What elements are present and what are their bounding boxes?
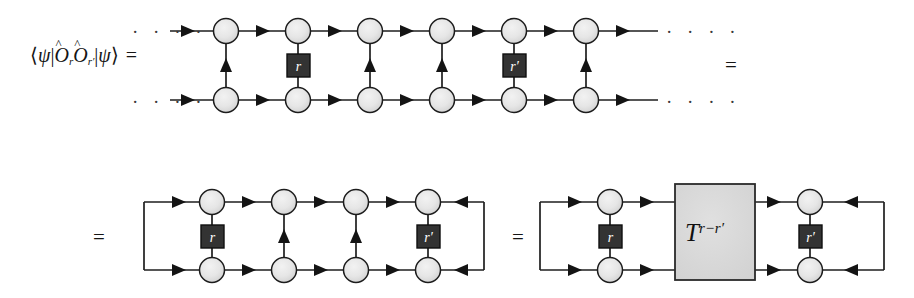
arrow-up-icon [580,58,592,72]
arrow-left-icon [844,264,858,276]
arrow-right-icon [314,196,328,208]
tensor-network-svg [0,0,914,298]
arrow-right-icon [328,94,342,106]
arrow-right-icon [256,94,270,106]
arrow-right-icon [242,196,256,208]
arrow-up-icon [278,229,290,243]
formula-equals: = [126,44,137,66]
right-ellipsis-top: · · · · [666,22,741,41]
line3-group [540,184,884,283]
arrow-right-icon [568,196,582,208]
arrow-up-icon [364,58,376,72]
expectation-value-formula: ⟨ψ|O^rO^r′|ψ⟩= [30,45,137,67]
tensor-node[interactable] [272,190,297,215]
arrow-right-icon [616,25,630,37]
arrow-left-icon [844,196,858,208]
arrow-right-icon [472,25,486,37]
arrow-up-icon [350,229,362,243]
tensor-node[interactable] [286,19,311,44]
arrow-right-icon [386,196,400,208]
tensor-node[interactable] [430,19,455,44]
arrow-left-icon [454,264,468,276]
transfer-matrix-box[interactable] [675,184,755,280]
tensor-node[interactable] [416,190,441,215]
arrow-right-icon [386,264,400,276]
arrow-right-icon [172,196,186,208]
tensor-node[interactable] [416,258,441,283]
arrow-right-icon [616,94,630,106]
tensor-node[interactable] [358,88,383,113]
arrow-right-icon [242,264,256,276]
operator-box-r-prime[interactable] [503,54,526,77]
arrow-right-icon [640,196,654,208]
tensor-node[interactable] [502,19,527,44]
arrow-right-icon [256,25,270,37]
left-ellipsis-bottom: · · · · [132,92,207,111]
arrow-right-icon [172,264,186,276]
arrow-right-icon [640,264,654,276]
tensor-node[interactable] [798,258,823,283]
tensor-node[interactable] [272,258,297,283]
arrow-right-icon [472,94,486,106]
operator-box-r-prime[interactable] [799,225,822,248]
tensor-node[interactable] [344,258,369,283]
operator-box-r[interactable] [599,225,622,248]
formula-operator-1: O^ [54,45,68,65]
formula-bra-open: ⟨ [30,44,38,66]
tensor-node[interactable] [214,19,239,44]
formula-psi-right: ψ [98,44,110,66]
arrow-right-icon [767,264,781,276]
arrow-right-icon [544,94,558,106]
line2-trailing-equals: = [512,227,524,248]
arrow-left-icon [454,196,468,208]
tensor-node[interactable] [430,88,455,113]
line1-group [170,19,658,113]
tensor-node[interactable] [598,258,623,283]
tensor-node[interactable] [286,88,311,113]
arrow-right-icon [400,94,414,106]
arrow-up-icon [436,58,448,72]
arrow-right-icon [328,25,342,37]
operator-box-r-prime[interactable] [417,225,440,248]
line1-trailing-equals: = [725,55,737,76]
arrow-right-icon [314,264,328,276]
arrow-right-icon [767,196,781,208]
arrow-right-icon [400,25,414,37]
tensor-node[interactable] [200,258,225,283]
right-ellipsis-bottom: · · · · [666,92,741,111]
arrow-up-icon [220,58,232,72]
left-ellipsis-top: · · · · [132,22,207,41]
tensor-node[interactable] [574,19,599,44]
formula-psi-left: ψ [38,44,50,66]
hat-accent-icon: ^ [55,37,61,50]
figure-canvas: ⟨ψ|O^rO^r′|ψ⟩= · · · · · · · · · · · · ·… [0,0,914,298]
tensor-node[interactable] [502,88,527,113]
operator-box-r[interactable] [201,225,224,248]
operator-box-r[interactable] [287,54,310,77]
arrow-right-icon [544,25,558,37]
hat-accent-icon: ^ [74,37,80,50]
tensor-node[interactable] [344,190,369,215]
tensor-node[interactable] [214,88,239,113]
formula-operator-2: O^ [73,45,87,65]
tensor-node[interactable] [200,190,225,215]
tensor-node[interactable] [798,190,823,215]
tensor-node[interactable] [598,190,623,215]
arrow-right-icon [568,264,582,276]
line2-group [144,190,484,283]
tensor-node[interactable] [358,19,383,44]
line2-leading-equals: = [93,227,105,248]
formula-ket-close: ⟩ [111,44,119,66]
tensor-node[interactable] [574,88,599,113]
